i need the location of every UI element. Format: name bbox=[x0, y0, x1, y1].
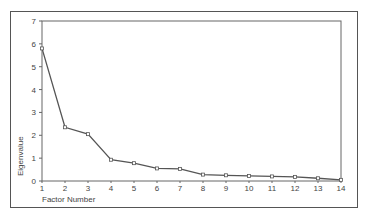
y-tick-label: 5 bbox=[32, 63, 37, 72]
x-tick-label: 3 bbox=[86, 184, 91, 193]
y-tick-label: 0 bbox=[32, 177, 37, 186]
x-tick-label: 6 bbox=[155, 184, 160, 193]
data-point-marker bbox=[110, 158, 113, 161]
x-axis-title: Factor Number bbox=[42, 195, 96, 204]
data-point-marker bbox=[294, 175, 297, 178]
y-tick-label: 6 bbox=[32, 40, 37, 49]
data-point-marker bbox=[156, 167, 159, 170]
x-axis: 1234567891011121314 bbox=[40, 181, 346, 193]
data-point-marker bbox=[87, 133, 90, 136]
x-tick-label: 12 bbox=[291, 184, 300, 193]
y-tick-label: 1 bbox=[32, 154, 37, 163]
data-point-marker bbox=[64, 126, 67, 129]
series-line bbox=[42, 48, 341, 179]
data-point-marker bbox=[340, 178, 343, 181]
data-point-marker bbox=[248, 174, 251, 177]
data-point-marker bbox=[133, 162, 136, 165]
x-tick-label: 11 bbox=[268, 184, 277, 193]
data-point-marker bbox=[202, 173, 205, 176]
x-tick-label: 8 bbox=[201, 184, 206, 193]
data-point-marker bbox=[271, 175, 274, 178]
eigenvalue-series bbox=[41, 47, 343, 181]
plot-area bbox=[42, 21, 341, 181]
x-tick-label: 14 bbox=[337, 184, 346, 193]
x-tick-label: 5 bbox=[132, 184, 137, 193]
data-point-marker bbox=[317, 177, 320, 180]
y-tick-label: 3 bbox=[32, 108, 37, 117]
x-tick-label: 2 bbox=[63, 184, 68, 193]
data-point-marker bbox=[179, 167, 182, 170]
plot-border bbox=[42, 21, 341, 181]
x-tick-label: 7 bbox=[178, 184, 183, 193]
y-tick-label: 2 bbox=[32, 131, 37, 140]
x-tick-label: 1 bbox=[40, 184, 45, 193]
data-point-marker bbox=[41, 47, 44, 50]
y-tick-label: 4 bbox=[32, 86, 37, 95]
x-tick-label: 13 bbox=[314, 184, 323, 193]
scree-plot: 01234567 1234567891011121314 Eigenvalue … bbox=[0, 0, 368, 220]
y-tick-label: 7 bbox=[32, 17, 37, 26]
y-axis: 01234567 bbox=[32, 17, 42, 186]
x-tick-label: 10 bbox=[245, 184, 254, 193]
y-axis-title: Eigenvalue bbox=[16, 136, 25, 176]
data-point-marker bbox=[225, 174, 228, 177]
x-tick-label: 9 bbox=[224, 184, 229, 193]
x-tick-label: 4 bbox=[109, 184, 114, 193]
